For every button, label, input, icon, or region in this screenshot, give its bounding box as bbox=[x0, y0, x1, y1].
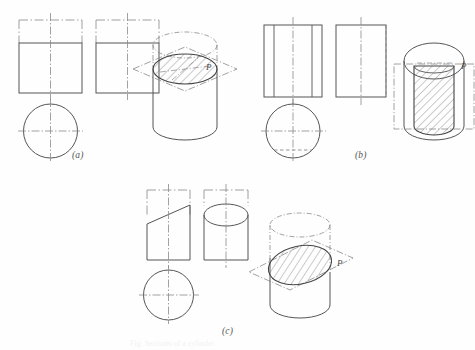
panel-c-top-view bbox=[139, 266, 199, 324]
panel-b bbox=[261, 17, 474, 163]
section-surface-ellipse bbox=[265, 240, 336, 290]
section-face bbox=[414, 66, 454, 135]
panel-a-front-view bbox=[19, 13, 82, 100]
cylinder-bottom-arc bbox=[153, 127, 217, 140]
panel-b-side-view bbox=[336, 17, 386, 105]
panel-a-label: (a) bbox=[72, 150, 84, 160]
panel-b-pictorial bbox=[394, 43, 474, 140]
removed-top-ellipse bbox=[270, 213, 330, 237]
panel-c-label: (c) bbox=[222, 326, 233, 336]
section-surface-rectangle bbox=[414, 66, 454, 135]
panel-c bbox=[139, 184, 353, 324]
panel-c-front-view bbox=[147, 184, 190, 268]
panel-a-side-view bbox=[96, 13, 159, 100]
panel-a bbox=[18, 13, 237, 163]
panel-b-plane-label: P bbox=[461, 61, 467, 71]
panel-b-front-view bbox=[264, 17, 322, 105]
technical-drawing-canvas bbox=[0, 0, 475, 350]
panel-c-side-view bbox=[204, 184, 248, 268]
cylinder-top-back-arc bbox=[404, 43, 464, 61]
panel-a-pictorial bbox=[133, 32, 237, 140]
panel-a-plane-label: P bbox=[206, 62, 212, 72]
figure-container: (a) (b) (c) P P P Fig. Sections of a cyl… bbox=[0, 0, 475, 350]
caption-strip: Fig. Sections of a cylinder bbox=[0, 340, 475, 350]
panel-c-plane-label: P bbox=[337, 258, 343, 268]
cylinder-bottom-arc bbox=[270, 305, 330, 318]
panel-b-top-view bbox=[261, 99, 326, 163]
panel-b-label: (b) bbox=[355, 150, 367, 160]
figure-caption: Fig. Sections of a cylinder bbox=[130, 340, 214, 348]
